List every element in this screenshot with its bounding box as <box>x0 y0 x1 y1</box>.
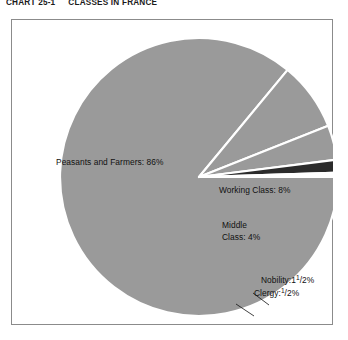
chart-page: CHART 25-1CLASSES IN FRANCE Peasants and… <box>0 0 348 340</box>
chart-number: CHART 25-1 <box>6 0 55 7</box>
chart-title-row: CHART 25-1CLASSES IN FRANCE <box>6 0 342 10</box>
page-title: CLASSES IN FRANCE <box>68 0 157 7</box>
pie-slices-group <box>60 38 333 316</box>
pie-chart-canvas <box>11 19 333 325</box>
pie-svg <box>11 19 333 325</box>
